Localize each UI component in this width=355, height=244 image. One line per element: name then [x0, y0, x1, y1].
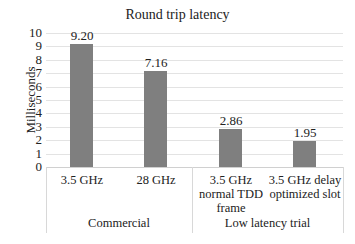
y-tick-label: 0 — [20, 160, 42, 173]
y-tick-label: 6 — [20, 80, 42, 93]
bar — [219, 129, 242, 167]
bar — [144, 71, 167, 167]
value-label: 7.16 — [126, 56, 186, 69]
y-tick-label: 2 — [20, 133, 42, 146]
y-tick-label: 1 — [20, 147, 42, 160]
group-divider — [343, 167, 344, 233]
category-label-line: 28 GHz — [119, 173, 193, 187]
value-label: 2.86 — [201, 114, 261, 127]
value-label: 9.20 — [52, 29, 112, 42]
category-label-line: optimized slot — [268, 187, 342, 201]
category-label: 3.5 GHz — [45, 173, 119, 187]
y-tick-label: 8 — [20, 53, 42, 66]
bar — [293, 141, 316, 167]
category-label-line: 3.5 GHz delay — [268, 173, 342, 187]
chart-title: Round trip latency — [0, 7, 355, 23]
category-label-line: frame — [194, 201, 268, 215]
category-label: 3.5 GHz delayoptimized slot — [268, 173, 342, 201]
category-label-line: normal TDD — [194, 187, 268, 201]
category-label: 3.5 GHznormal TDDframe — [194, 173, 268, 215]
y-tick-label: 4 — [20, 106, 42, 119]
category-label: 28 GHz — [119, 173, 193, 187]
y-tick-label: 10 — [20, 26, 42, 39]
value-label: 1.95 — [275, 126, 335, 139]
category-label-line: 3.5 GHz — [194, 173, 268, 187]
y-tick-label: 9 — [20, 39, 42, 52]
group-label: Commercial — [46, 216, 192, 231]
y-tick-label: 3 — [20, 120, 42, 133]
y-tick-label: 5 — [20, 93, 42, 106]
bar — [70, 44, 93, 167]
x-axis-line — [46, 167, 343, 168]
category-label-line: 3.5 GHz — [45, 173, 119, 187]
group-label: Low latency trial — [192, 216, 343, 231]
y-tick-label: 7 — [20, 66, 42, 79]
